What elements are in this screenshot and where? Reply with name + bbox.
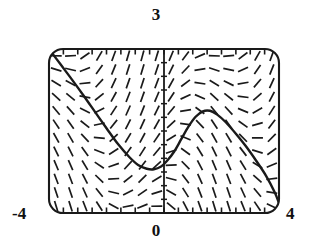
slope-field-segment [96,79,103,87]
slope-field-segment [238,82,249,84]
slope-field-segment [152,191,163,194]
slope-field-segment [197,147,203,156]
slope-field-segment [268,120,275,129]
slope-field-segment [182,174,189,183]
slope-field-segment [111,106,117,115]
slope-field-segment [180,110,191,112]
slope-field-segment [239,53,248,60]
slope-field-segment [253,175,261,182]
slope-field-segment [80,53,89,59]
slope-field-segment [65,68,76,71]
slope-field-segment [169,65,174,75]
slope-field-segment [212,160,216,170]
slope-field-segment [126,92,130,102]
slope-field-segment [108,179,119,180]
slope-field-segment [82,147,88,156]
slope-field-segment [267,148,276,154]
slope-field-segment [210,93,218,100]
slope-field-segment [270,64,274,74]
slope-field-segment [167,120,175,127]
slope-field-segment [182,51,189,60]
slope-field-segment [198,174,203,184]
slope-field-segment [69,201,72,211]
slope-field-segment [109,204,119,209]
slope-field-segment [155,51,158,62]
slope-field-segment [225,106,232,114]
slope-field-segment [182,66,190,74]
slope-field-segment [141,92,145,102]
slope-field-segment [167,203,175,210]
slope-field-segment [166,177,177,180]
slope-field-segment [254,202,260,211]
slope-field-segment [79,83,90,84]
slope-field-segment [238,108,248,112]
slope-field-segment [166,190,176,195]
slope-field-segment [54,133,59,143]
slope-field-segment [82,160,88,169]
slope-field-segment [155,92,159,102]
slope-field-segment [52,93,60,100]
slope-field-segment [198,187,202,197]
slope-field-segment [68,147,73,157]
slope-field-segment [238,96,249,97]
slope-field-segment [94,150,104,154]
slope-field-segment [68,133,74,142]
slope-field-segment [140,119,145,129]
x-axis-min-label: -4 [12,205,26,222]
slope-field-segment [253,93,261,100]
slope-field-segment [124,161,131,169]
slope-field-segment [269,106,275,115]
slope-field-segment [53,120,59,129]
y-axis-max-label: 3 [0,6,312,23]
slope-field-segment [213,187,217,197]
slope-field-segment [269,92,274,102]
slope-field-segment [96,65,102,74]
slope-field-segment [197,133,204,142]
slope-field-segment [96,202,102,211]
slope-field-segment [137,204,147,208]
slope-field-segment [123,190,133,195]
slope-field-segment [226,147,231,157]
slope-field-segment [94,137,105,138]
slope-field-segment [126,64,129,74]
slope-field-segment [109,149,118,155]
slope-field-segment [254,65,260,74]
slope-field-segment [196,120,204,128]
slope-field-segment [97,51,103,60]
slope-field-segment [227,187,231,197]
slope-field-segment [123,205,134,207]
slope-field-segment [267,163,277,167]
slope-field-segment [51,80,60,86]
slope-field-segment [198,201,202,211]
slope-field-segment [141,64,144,75]
slope-field-segment [169,51,173,61]
slope-field-segment [68,160,72,170]
slope-field-segment [181,148,190,154]
slope-field-segment [51,68,62,71]
slope-field-segment [169,78,174,88]
slope-field-segment [154,133,160,142]
slope-field-segment [126,78,130,88]
slope-field-segment [81,121,90,128]
slope-field-segment [239,121,248,127]
slope-field-segment [268,134,276,142]
slope-field-segment [141,51,144,62]
slope-field-segment [270,78,275,88]
slope-field-segment [54,160,58,170]
slope-field-segment [224,81,234,86]
slope-field-segment [238,67,248,72]
slope-field-segment [95,93,104,100]
slope-field-segment [194,69,205,71]
slope-field-segment [226,133,232,142]
origin-label: 0 [0,222,312,239]
slope-field-segment [210,80,219,86]
slope-field-segment [54,187,58,197]
slope-field-segment [80,108,90,113]
slope-field-segment [154,106,159,116]
figure-root: 3 0 -4 4 [0,0,312,251]
slope-field-segment [108,191,119,194]
slope-field-segment [195,82,206,84]
slope-field-segment [95,175,103,183]
slope-field-segment [95,162,104,168]
slope-field-segment [195,54,205,58]
